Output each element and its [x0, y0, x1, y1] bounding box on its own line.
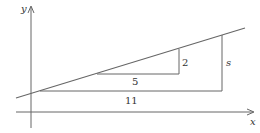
large-rise-label: s [226, 57, 231, 68]
sloped-line [16, 28, 245, 98]
slope-diagram: y x 5 2 11 s [0, 0, 260, 133]
large-run-label: 11 [125, 95, 138, 106]
small-rise-label: 2 [182, 57, 188, 68]
small-run-label: 5 [132, 76, 138, 87]
x-axis-label: x [250, 116, 256, 127]
y-axis-label: y [20, 3, 27, 14]
diagram-svg: y x 5 2 11 s [0, 0, 260, 133]
